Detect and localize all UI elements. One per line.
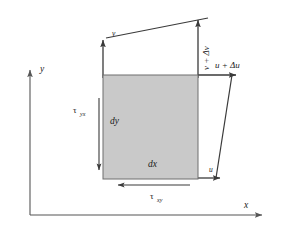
diagram-canvas: y x dy dx v v + Δv bbox=[0, 0, 281, 237]
dx-label: dx bbox=[148, 159, 158, 169]
tau-xy-symbol: τ bbox=[150, 191, 154, 201]
tau-yx-label-group: τ yx bbox=[73, 105, 86, 117]
u-bottom-label: u bbox=[209, 165, 213, 174]
strain-element-diagram: y x dy dx v v + Δv bbox=[0, 0, 281, 237]
deformed-top-edge bbox=[106, 18, 208, 38]
tau-xy-subscript: xy bbox=[156, 197, 163, 203]
dy-label: dy bbox=[110, 116, 120, 126]
v-right-label: v + Δv bbox=[201, 46, 211, 70]
x-axis-label: x bbox=[243, 200, 249, 210]
tau-xy-label-group: τ xy bbox=[150, 191, 163, 203]
y-axis-label: y bbox=[39, 64, 45, 74]
tau-yx-subscript: yx bbox=[79, 111, 86, 117]
u-top-label: u + Δu bbox=[215, 60, 240, 70]
v-right-label-group: v + Δv bbox=[201, 46, 211, 70]
tau-yx-symbol: τ bbox=[73, 105, 77, 115]
deformed-right-edge bbox=[216, 75, 232, 178]
